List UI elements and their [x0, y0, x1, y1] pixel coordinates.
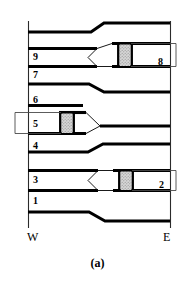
unit-label-5: 5 — [33, 119, 38, 129]
boundary-top — [28, 23, 170, 32]
unit-label-9: 9 — [33, 52, 38, 62]
unit-label-2: 2 — [159, 180, 164, 190]
unit-label-3: 3 — [33, 175, 38, 185]
unit-label-8: 8 — [158, 57, 163, 67]
boundary-unit7-base — [28, 84, 170, 92]
callout-box-unit8 — [131, 44, 176, 67]
figure-container: 9 7 6 5 4 3 1 8 2 W E (a) — [0, 0, 195, 282]
unit-label-6: 6 — [33, 95, 38, 105]
figure-caption: (a) — [0, 256, 195, 271]
unit-label-1: 1 — [33, 196, 38, 206]
hatched-block-upper — [120, 45, 131, 67]
hatched-block-lower — [121, 172, 132, 191]
unit-label-4: 4 — [33, 141, 38, 151]
unit-label-7: 7 — [33, 70, 38, 80]
direction-label-east: E — [163, 231, 170, 243]
boundary-unit4-base — [28, 144, 170, 152]
boundary-unit1-base — [28, 212, 170, 221]
stratigraphic-boundaries — [28, 23, 170, 221]
hatched-block-middle — [62, 114, 73, 134]
direction-label-west: W — [27, 231, 38, 243]
callout-box-unit5 — [15, 113, 61, 134]
callout-box-unit2 — [132, 171, 176, 191]
wedge-middle — [86, 113, 100, 134]
wedge-lower — [88, 171, 113, 191]
